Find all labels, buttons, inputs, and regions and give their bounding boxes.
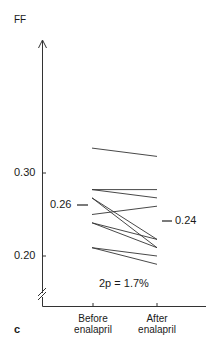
series-line-5: [92, 198, 157, 248]
x-axis: [43, 303, 207, 307]
ytick-label-020: 0.20: [14, 250, 35, 261]
category-label-after: After enalapril: [127, 313, 187, 335]
series-line-4: [92, 198, 157, 240]
series-line-1: [92, 148, 157, 156]
series-line-10: [92, 248, 157, 265]
mean-after-label: 0.24: [175, 215, 196, 226]
category-label-before: Before enalapril: [63, 313, 123, 335]
series-line-8: [92, 223, 157, 248]
ytick-label-030: 0.30: [14, 167, 35, 178]
series-line-3: [92, 190, 157, 198]
series-line-9: [92, 248, 157, 256]
series-line-7: [92, 223, 157, 240]
y-axis-label: FF: [14, 15, 26, 25]
y-axis: [38, 40, 47, 307]
p-value-annotation: 2p = 1.7%: [99, 278, 149, 289]
series-lines: [92, 148, 157, 264]
mean-before-label: 0.26: [50, 199, 71, 210]
series-line-6: [92, 206, 157, 214]
panel-label: c: [14, 324, 20, 335]
